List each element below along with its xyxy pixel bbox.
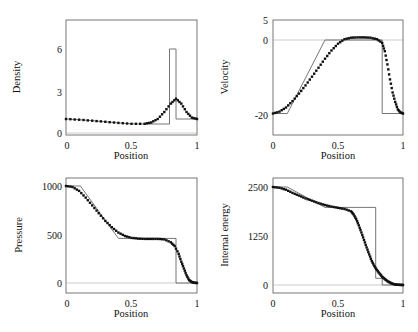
numerical-data-point xyxy=(302,196,304,198)
numerical-data-point xyxy=(311,76,313,78)
numerical-data-point xyxy=(363,239,365,241)
numerical-data-point xyxy=(354,36,356,38)
numerical-data-point xyxy=(128,236,130,238)
panel-density: 0 3 6 0 0.5 1 Position Density xyxy=(11,20,200,161)
y-axis-label: Pressure xyxy=(13,217,24,253)
x-axis-label: Position xyxy=(114,308,149,319)
figure-canvas: 0 3 6 0 0.5 1 Position Density -20 0 5 0… xyxy=(0,0,418,332)
numerical-data-point xyxy=(65,118,67,120)
numerical-data-point xyxy=(175,248,177,250)
numerical-data-point xyxy=(402,284,404,286)
numerical-data-point xyxy=(357,222,359,224)
numerical-data-point xyxy=(161,113,163,115)
numerical-data-point xyxy=(341,40,343,42)
numerical-data-point xyxy=(328,52,330,54)
numerical-data-point xyxy=(69,118,71,120)
numerical-data-point xyxy=(104,121,106,123)
numerical-data-point xyxy=(163,238,165,240)
y-tick: 500 xyxy=(47,230,62,241)
numerical-data-point xyxy=(330,49,332,51)
numerical-data-point xyxy=(157,238,159,240)
numerical-data-point xyxy=(296,95,298,97)
plot-area xyxy=(65,49,198,133)
plot-frame xyxy=(66,20,197,135)
numerical-data-point xyxy=(309,78,311,80)
numerical-data-point xyxy=(87,199,89,201)
numerical-data-point xyxy=(126,235,128,237)
y-axis-label: Velocity xyxy=(219,59,230,95)
numerical-data-point xyxy=(348,37,350,39)
panel-internal-energy: 0 1250 2500 0 0.5 1 Position Internal en… xyxy=(219,178,406,319)
numerical-data-point xyxy=(352,36,354,38)
numerical-data-point xyxy=(272,186,274,188)
y-tick: 0 xyxy=(263,35,268,46)
numerical-data-point xyxy=(115,230,117,232)
numerical-data-point xyxy=(179,258,181,260)
numerical-data-point xyxy=(283,188,285,190)
panel-pressure: 0 500 1000 0 0.5 1 Position Pressure xyxy=(13,178,200,319)
numerical-data-point xyxy=(355,218,357,220)
numerical-data-point xyxy=(180,261,182,263)
numerical-data-point xyxy=(337,207,339,209)
numerical-data-point xyxy=(143,238,145,240)
numerical-data-point xyxy=(274,186,276,188)
numerical-data-point xyxy=(111,226,113,228)
plot-frame xyxy=(273,20,403,135)
numerical-data-point xyxy=(161,238,163,240)
exact-solution-line xyxy=(66,49,197,124)
numerical-data-point xyxy=(122,234,124,236)
numerical-data-point xyxy=(165,239,167,241)
numerical-data-point xyxy=(146,122,148,124)
numerical-data-point xyxy=(359,36,361,38)
numerical-data-point xyxy=(359,227,361,229)
numerical-data-point xyxy=(381,42,383,44)
numerical-data-point xyxy=(139,123,141,125)
numerical-data-point xyxy=(139,238,141,240)
numerical-data-point xyxy=(360,231,362,233)
numerical-data-point xyxy=(91,204,93,206)
numerical-data-point xyxy=(304,84,306,86)
numerical-data-point xyxy=(346,38,348,40)
numerical-data-point xyxy=(78,119,80,121)
numerical-data-point xyxy=(85,196,87,198)
panel-velocity: -20 0 5 0 0.5 1 Position Velocity xyxy=(219,15,406,161)
numerical-data-point xyxy=(165,108,167,110)
numerical-data-point xyxy=(82,194,84,196)
numerical-data-point xyxy=(339,41,341,43)
numerical-data-point xyxy=(365,244,367,246)
numerical-data-point xyxy=(383,47,385,49)
numerical-data-point xyxy=(163,111,165,113)
numerical-data-point xyxy=(350,37,352,39)
numerical-data-point xyxy=(65,185,67,187)
exact-solution-line xyxy=(273,187,403,285)
numerical-data-point xyxy=(117,122,119,124)
numerical-data-point xyxy=(307,198,309,200)
numerical-data-point xyxy=(276,186,278,188)
numerical-data-point xyxy=(141,238,143,240)
numerical-data-point xyxy=(367,36,369,38)
numerical-data-point xyxy=(289,102,291,104)
numerical-data-point xyxy=(291,100,293,102)
numerical-data-point xyxy=(311,200,313,202)
numerical-data-point xyxy=(159,116,161,118)
numerical-data-point xyxy=(317,67,319,69)
numerical-data-point xyxy=(365,36,367,38)
numerical-data-point xyxy=(167,240,169,242)
numerical-data-point xyxy=(196,118,198,120)
numerical-data-point xyxy=(184,272,186,274)
numerical-data-point xyxy=(362,236,364,238)
numerical-data-point xyxy=(326,204,328,206)
numerical-data-point xyxy=(320,203,322,205)
x-axis-label: Position xyxy=(321,308,356,319)
numerical-data-point xyxy=(117,231,119,233)
numerical-data-point xyxy=(146,238,148,240)
numerical-data-point xyxy=(109,224,111,226)
numerical-data-point xyxy=(181,263,183,265)
x-tick: 0 xyxy=(271,298,276,309)
numerical-data-point xyxy=(335,45,337,47)
y-tick: 0 xyxy=(57,278,62,289)
numerical-data-point xyxy=(95,120,97,122)
numerical-data-point xyxy=(339,207,341,209)
numerical-data-point xyxy=(281,187,283,189)
numerical-data-point xyxy=(390,83,392,85)
